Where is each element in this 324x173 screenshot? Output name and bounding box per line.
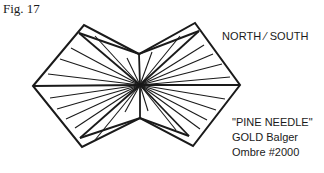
thin-radial-stitch xyxy=(48,74,140,85)
direction-label: NORTH ⁄ SOUTH xyxy=(222,30,309,42)
thick-radial-stitch xyxy=(33,85,140,86)
inner-outline-top xyxy=(79,31,199,54)
thin-radial-stitch xyxy=(95,85,140,140)
thread-line-1: GOLD Balger xyxy=(232,131,298,143)
thick-radial-stitch xyxy=(79,33,140,85)
pattern-name: "PINE NEEDLE" xyxy=(232,116,313,128)
thread-line-2: Ombre #2000 xyxy=(232,146,299,158)
thick-radial-stitch xyxy=(139,54,140,85)
thick-radial-stitch xyxy=(80,85,140,138)
thin-radial-lines xyxy=(48,36,230,140)
